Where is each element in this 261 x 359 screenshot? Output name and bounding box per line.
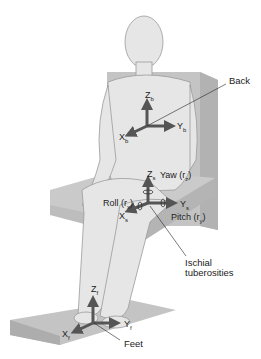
- back-y-label: Yb: [177, 122, 186, 133]
- feet-callout: Feet: [124, 339, 143, 349]
- back-z-label: Zb: [145, 91, 154, 102]
- roll-label: Roll (rx): [103, 199, 133, 210]
- back-x-label: Xb: [119, 133, 128, 144]
- yaw-label: Yaw (rz): [160, 171, 191, 182]
- back-callout: Back: [229, 76, 250, 86]
- seated-figure-illustration: [0, 0, 261, 359]
- seat-y-label: Ys: [180, 200, 189, 211]
- feet-z-label: Zf: [91, 285, 98, 296]
- seat-x-label: Xs: [119, 212, 128, 223]
- pitch-label: Pitch (ry): [171, 213, 206, 224]
- feet-x-label: Xf: [62, 330, 70, 341]
- seat-z-label: Zs: [147, 170, 156, 181]
- ischial-callout-line2: tuberosities: [185, 268, 234, 278]
- feet-y-label: Yf: [124, 320, 132, 331]
